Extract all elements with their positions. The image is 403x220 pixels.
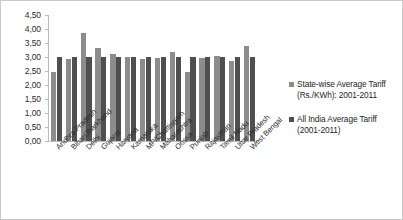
y-axis-tick-label: 1,50 — [25, 94, 41, 104]
y-axis-tick-label: 2,50 — [25, 66, 41, 76]
y-axis: 4,504,003,503,002,502,001,501,000,500,00 — [1, 15, 45, 141]
bar-group — [49, 15, 64, 141]
x-axis-tick-mark — [227, 142, 228, 145]
chart-figure: 4,504,003,503,002,502,001,501,000,500,00… — [0, 0, 403, 220]
x-axis-tick-mark — [79, 142, 80, 145]
x-axis-tick-mark — [138, 142, 139, 145]
bar-group — [198, 15, 213, 141]
y-axis-tick-mark — [45, 29, 48, 30]
y-axis-tick-mark — [45, 99, 48, 100]
legend-entry[interactable]: All India Average Tariff (2001-2011) — [289, 114, 401, 136]
x-axis-tick-mark — [123, 142, 124, 145]
y-axis-tick-mark — [45, 85, 48, 86]
y-axis-tick-mark — [45, 71, 48, 72]
x-axis-tick-mark — [108, 142, 109, 145]
x-axis-tick-mark — [198, 142, 199, 145]
y-axis-tick-mark — [45, 127, 48, 128]
y-axis-tick-mark — [45, 113, 48, 114]
y-axis-tick-label: 4,00 — [25, 24, 41, 34]
y-axis-tick-label: 4,50 — [25, 10, 41, 20]
x-axis-tick-mark — [94, 142, 95, 145]
legend-entry[interactable]: State-wise Average Tariff (Rs./KWh): 200… — [289, 79, 401, 101]
chart-legend: State-wise Average Tariff (Rs./KWh): 200… — [289, 79, 401, 149]
x-axis-tick-mark — [242, 142, 243, 145]
y-axis-tick-label: 2,00 — [25, 80, 41, 90]
bar — [57, 57, 62, 141]
y-axis-tick-label: 1,00 — [25, 108, 41, 118]
x-axis-tick-mark — [212, 142, 213, 145]
bar-group — [123, 15, 138, 141]
x-axis-category-labels: Andhra PradeshBihar/JharkhandDelhiGujara… — [1, 143, 261, 220]
bar — [51, 72, 56, 141]
legend-label: State-wise Average Tariff (Rs./KWh): 200… — [297, 79, 401, 101]
y-axis-tick-label: 3,00 — [25, 52, 41, 62]
legend-label: All India Average Tariff (2001-2011) — [297, 114, 401, 136]
y-axis-tick-label: 0,50 — [25, 122, 41, 132]
y-axis-tick-mark — [45, 43, 48, 44]
bar — [190, 57, 195, 141]
bar-group — [108, 15, 123, 141]
y-axis-tick-mark — [45, 15, 48, 16]
x-axis-tick-mark — [64, 142, 65, 145]
x-axis-tick-mark — [168, 142, 169, 145]
y-axis-tick-mark — [45, 57, 48, 58]
legend-swatch-icon — [289, 82, 294, 87]
x-axis-tick-mark — [153, 142, 154, 145]
x-axis-tick-mark — [257, 142, 258, 145]
bar — [101, 57, 106, 141]
y-axis-tick-label: 3,50 — [25, 38, 41, 48]
y-axis-tick-mark — [45, 141, 48, 142]
bar — [205, 57, 210, 141]
legend-swatch-icon — [289, 117, 294, 122]
x-axis-tick-mark — [183, 142, 184, 145]
